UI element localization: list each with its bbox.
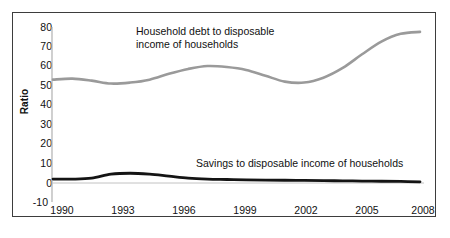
- series-label-household-debt-line1: Household debt to disposable: [136, 25, 274, 38]
- x-tick-label-2002: 2002: [283, 205, 329, 216]
- x-tick-label-1996: 1996: [161, 205, 207, 216]
- x-tick-label-1993: 1993: [100, 205, 146, 216]
- y-tick-label-80: 80: [26, 22, 52, 32]
- series-label-savings: Savings to disposable income of househol…: [196, 157, 403, 170]
- y-tick-label-10: 10: [26, 158, 52, 168]
- y-tick-label-40: 40: [26, 99, 52, 109]
- y-tick-label-60: 60: [26, 60, 52, 70]
- y-tick-label-30: 30: [26, 119, 52, 129]
- series-label-household-debt: Household debt to disposable income of h…: [136, 25, 274, 50]
- y-tick-label-20: 20: [26, 138, 52, 148]
- y-tick-label-0: 0: [26, 178, 52, 188]
- x-tick-label-2008: 2008: [400, 205, 446, 216]
- y-tick-label-50: 50: [26, 80, 52, 90]
- x-tick-label-2005: 2005: [344, 205, 390, 216]
- series-label-household-debt-line2: income of households: [136, 38, 274, 51]
- chart-figure: Ratio 80 70 60 50 40 30 20 10 0 -10 1990…: [0, 0, 450, 238]
- y-tick-label-70: 70: [26, 41, 52, 51]
- x-tick-label-1999: 1999: [222, 205, 268, 216]
- x-tick-label-1990: 1990: [39, 205, 85, 216]
